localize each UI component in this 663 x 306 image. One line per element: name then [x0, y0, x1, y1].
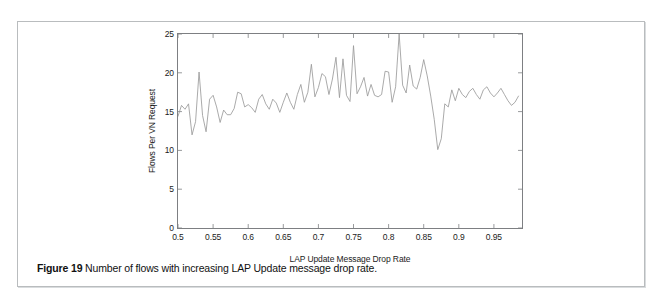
x-tick-label: 0.85 [416, 232, 432, 242]
x-tick-label: 0.8 [383, 232, 395, 242]
x-tick-label: 0.9 [453, 232, 465, 242]
figure-caption-text: Number of flows with increasing LAP Upda… [82, 262, 377, 274]
line-chart-canvas [178, 34, 522, 228]
x-tick-label: 0.6 [242, 232, 254, 242]
y-tick-label: 20 [165, 68, 174, 78]
y-tick-label: 15 [165, 107, 174, 117]
y-tick-label: 10 [165, 145, 174, 155]
x-tick-label: 0.65 [275, 232, 291, 242]
figure-caption: Figure 19 Number of flows with increasin… [37, 262, 377, 274]
x-tick-label: 0.55 [205, 232, 221, 242]
y-tick-label: 5 [169, 184, 174, 194]
y-tick-label: 25 [165, 29, 174, 39]
tick-marks [178, 34, 522, 228]
y-axis-title: Flows Per VN Request [147, 33, 161, 229]
scanned-page: 0510152025 0.50.550.60.650.70.750.80.850… [17, 21, 645, 287]
x-tick-label: 0.75 [345, 232, 361, 242]
x-tick-label: 0.95 [486, 232, 502, 242]
x-tick-label: 0.5 [172, 232, 184, 242]
plot-frame: 0510152025 0.50.550.60.650.70.750.80.850… [177, 33, 523, 229]
figure-caption-label: Figure 19 [37, 262, 82, 274]
flows-per-vn-request-series [178, 34, 518, 150]
x-tick-label: 0.7 [313, 232, 325, 242]
figure-19: 0510152025 0.50.550.60.650.70.750.80.850… [18, 22, 644, 244]
